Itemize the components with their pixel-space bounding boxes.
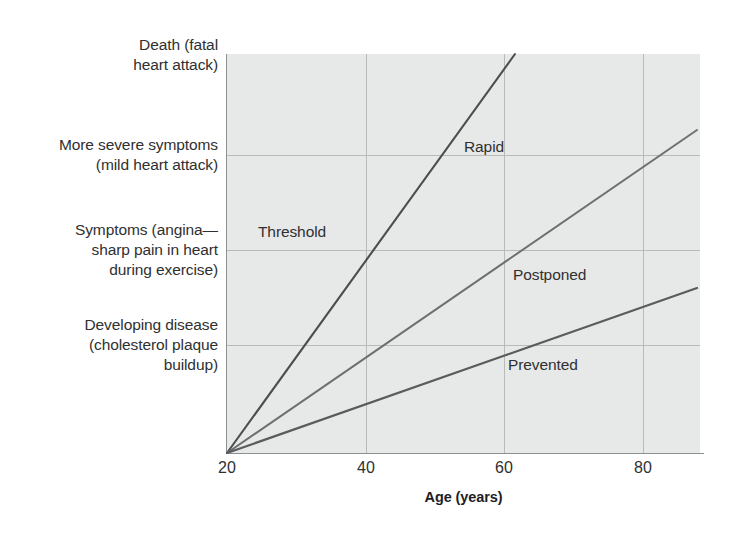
y-axis-label-developing-disease-line-3: buildup): [0, 355, 218, 375]
x-axis-line: [226, 453, 704, 454]
x-axis-tick-20: 20: [197, 459, 257, 477]
annotation-threshold: Threshold: [258, 223, 326, 241]
x-axis-tick-80: 80: [613, 459, 673, 477]
y-axis-line: [226, 54, 227, 454]
y-axis-label-death-line-2: heart attack): [0, 55, 218, 75]
y-axis-label-symptoms-angina: Symptoms (angina— sharp pain in heart du…: [0, 220, 218, 280]
annotation-postponed: Postponed: [513, 266, 586, 284]
y-axis-label-death-line-1: Death (fatal: [0, 35, 218, 55]
gridline-vertical-60: [504, 54, 505, 453]
y-axis-label-more-severe-symptoms-line-1: More severe symptoms: [0, 135, 218, 155]
y-axis-label-symptoms-angina-line-2: sharp pain in heart: [0, 240, 218, 260]
y-axis-label-death: Death (fatal heart attack): [0, 35, 218, 75]
x-axis-tick-60: 60: [474, 459, 534, 477]
plot-area: [227, 54, 700, 453]
x-axis-title: Age (years): [227, 489, 700, 505]
chart-figure: Death (fatal heart attack) More severe s…: [0, 0, 730, 537]
y-axis-label-symptoms-angina-line-3: during exercise): [0, 260, 218, 280]
y-axis-label-more-severe-symptoms-line-2: (mild heart attack): [0, 155, 218, 175]
y-axis-label-more-severe-symptoms: More severe symptoms (mild heart attack): [0, 135, 218, 175]
y-axis-label-developing-disease: Developing disease (cholesterol plaque b…: [0, 315, 218, 375]
gridline-horizontal-1: [227, 345, 700, 346]
y-axis-label-symptoms-angina-line-1: Symptoms (angina—: [0, 220, 218, 240]
gridline-vertical-40: [366, 54, 367, 453]
gridline-horizontal-2: [227, 250, 700, 251]
x-axis-tick-40: 40: [336, 459, 396, 477]
annotation-prevented: Prevented: [508, 356, 578, 374]
annotation-rapid: Rapid: [464, 138, 504, 156]
y-axis-label-developing-disease-line-2: (cholesterol plaque: [0, 335, 218, 355]
gridline-vertical-80: [643, 54, 644, 453]
y-axis-label-developing-disease-line-1: Developing disease: [0, 315, 218, 335]
